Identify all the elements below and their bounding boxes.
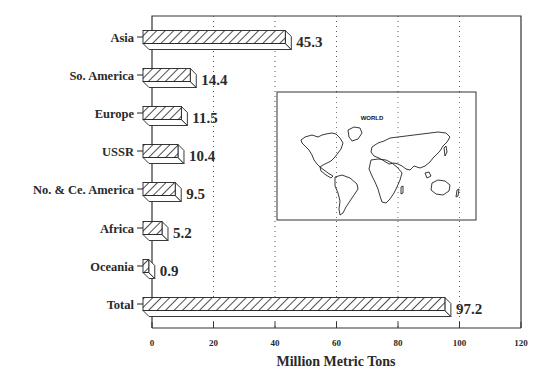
map-title: WORLD xyxy=(361,115,384,121)
value-label: 14.4 xyxy=(201,72,228,88)
value-label: 97.2 xyxy=(456,301,482,317)
x-tick-label: 120 xyxy=(514,338,528,348)
bar-oceania: Oceania0.9 xyxy=(90,260,178,280)
category-label: Europe xyxy=(95,107,135,121)
bar-no-ce-america: No. & Ce. America9.5 xyxy=(33,183,205,203)
category-label: No. & Ce. America xyxy=(33,183,135,197)
x-tick-label: 60 xyxy=(332,338,342,348)
category-label: Total xyxy=(107,298,135,312)
x-tick-label: 40 xyxy=(271,338,281,348)
x-tick-label: 0 xyxy=(150,338,155,348)
value-label: 5.2 xyxy=(173,225,192,241)
category-label: So. America xyxy=(69,69,134,83)
bar-asia: Asia45.3 xyxy=(110,31,322,51)
world-map-inset: WORLD xyxy=(277,92,476,220)
x-axis: 020406080100120 xyxy=(150,322,529,348)
bar-so-america: So. America14.4 xyxy=(69,69,228,89)
value-label: 0.9 xyxy=(160,263,179,279)
x-tick-label: 20 xyxy=(209,338,219,348)
bar-europe: Europe11.5 xyxy=(95,107,218,127)
value-label: 11.5 xyxy=(192,110,217,126)
bar-total: Total97.2 xyxy=(107,298,482,318)
bar-chart: WORLD Asia45.3So. America14.4Europe11.5U… xyxy=(0,0,540,381)
x-tick-label: 80 xyxy=(394,338,404,348)
category-label: Africa xyxy=(100,222,135,236)
x-tick-label: 100 xyxy=(453,338,467,348)
category-label: USSR xyxy=(102,145,135,159)
category-label: Oceania xyxy=(90,260,134,274)
category-label: Asia xyxy=(110,31,134,45)
x-axis-title: Million Metric Tons xyxy=(277,354,397,369)
bar-africa: Africa5.2 xyxy=(100,222,192,242)
value-label: 9.5 xyxy=(186,186,205,202)
bar-ussr: USSR10.4 xyxy=(102,145,216,165)
value-label: 45.3 xyxy=(296,34,322,50)
value-label: 10.4 xyxy=(189,148,216,164)
